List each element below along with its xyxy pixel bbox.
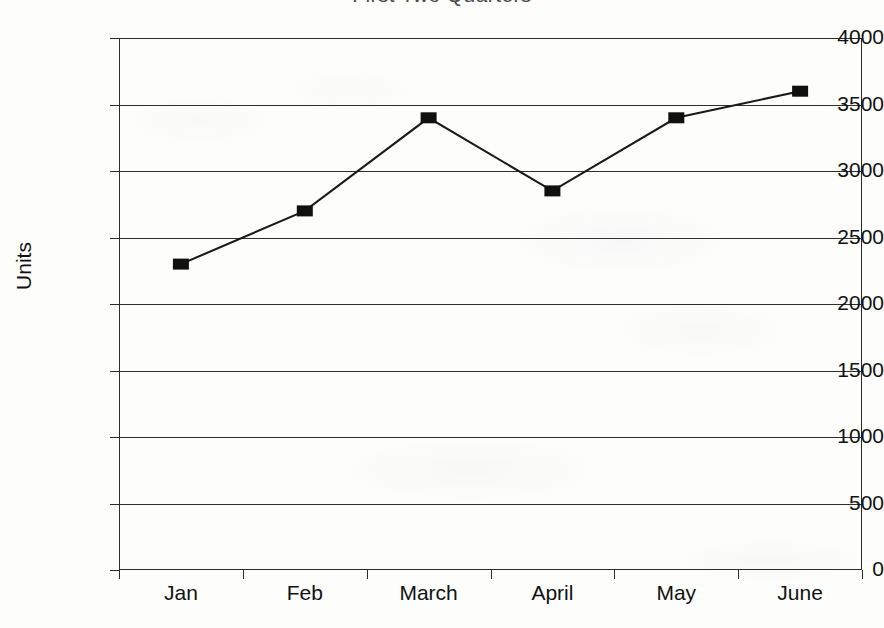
x-axis-tick	[367, 570, 368, 579]
gridline	[119, 105, 862, 106]
x-axis-tick	[243, 570, 244, 579]
data-point-may[interactable]	[666, 110, 686, 126]
gridline	[119, 171, 862, 172]
x-axis-tick	[119, 570, 120, 579]
x-axis-tick-label: Feb	[243, 581, 367, 605]
y-axis-tick	[110, 570, 119, 571]
y-axis-tick-label: 0	[776, 557, 884, 581]
x-axis-tick	[491, 570, 492, 579]
gridline	[119, 238, 862, 239]
y-axis-tick	[110, 105, 119, 106]
data-point-feb[interactable]	[295, 203, 315, 219]
x-axis-tick-label: April	[490, 581, 614, 605]
gridline	[119, 437, 862, 438]
x-axis-tick	[614, 570, 615, 579]
x-axis-tick	[738, 570, 739, 579]
x-axis-tick-label: June	[738, 581, 862, 605]
y-axis-tick-label: 4000	[776, 25, 884, 49]
y-axis-tick-label: 500	[776, 491, 884, 515]
y-axis-tick-label: 1000	[776, 424, 884, 448]
y-axis-tick-label: 2000	[776, 291, 884, 315]
gridline	[119, 504, 862, 505]
gridline	[119, 304, 862, 305]
x-axis-tick-label: May	[614, 581, 738, 605]
y-axis-tick	[110, 504, 119, 505]
data-point-jan[interactable]	[171, 256, 191, 272]
y-axis-tick	[110, 171, 119, 172]
x-axis-tick-label: March	[367, 581, 491, 605]
gridline	[119, 371, 862, 372]
y-axis-tick	[110, 238, 119, 239]
x-axis-tick-label: Jan	[119, 581, 243, 605]
y-axis-tick	[110, 304, 119, 305]
y-axis-tick-label: 1500	[776, 358, 884, 382]
y-axis-tick	[110, 371, 119, 372]
data-point-april[interactable]	[542, 183, 562, 199]
y-axis-tick-label: 2500	[776, 225, 884, 249]
data-point-march[interactable]	[419, 110, 439, 126]
y-axis-tick-label: 3000	[776, 158, 884, 182]
y-axis-tick	[110, 38, 119, 39]
data-point-june[interactable]	[790, 83, 810, 99]
y-axis-title: Units	[12, 226, 36, 306]
chart-title: First Two Quarters	[0, 0, 884, 7]
y-axis-tick	[110, 437, 119, 438]
